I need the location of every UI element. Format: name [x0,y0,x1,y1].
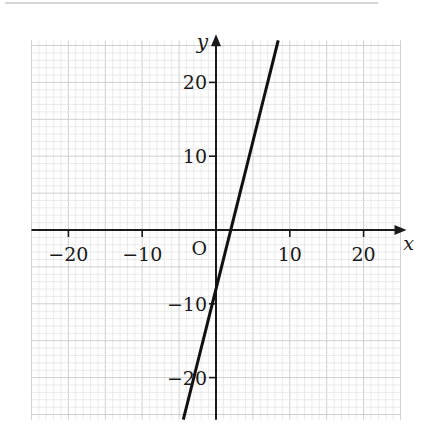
x-tick-label: −20 [48,243,88,265]
y-axis-label: y [196,30,209,54]
line-graph: −20−1010202010−10−20Oxy [0,0,424,438]
y-tick-label: −20 [167,367,207,389]
axis-labels: −20−1010202010−10−20Oxy [48,30,414,388]
axes [32,34,407,419]
y-axis-arrow-icon [211,34,221,46]
x-tick-label: −10 [122,243,162,265]
x-tick-label: 10 [278,243,302,265]
x-axis-label: x [403,232,414,254]
y-tick-label: 20 [183,71,207,93]
x-tick-label: 20 [352,243,376,265]
y-tick-label: −10 [167,293,207,315]
origin-label: O [191,237,207,259]
y-tick-label: 10 [183,145,207,167]
